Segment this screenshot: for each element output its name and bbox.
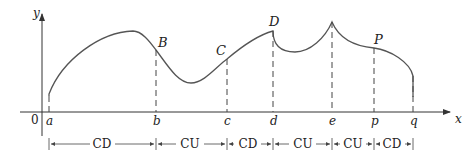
function-curve — [49, 22, 413, 97]
point-label-D: D — [268, 14, 280, 29]
point-label-P: P — [373, 32, 383, 47]
tick-label-c: c — [224, 114, 231, 128]
tick-label-d: d — [270, 114, 278, 128]
point-label-C: C — [216, 43, 226, 58]
interval-label-a-b: CD — [93, 137, 112, 151]
x-axis-label: x — [455, 112, 462, 126]
origin-label: 0 — [31, 113, 39, 127]
interval-label-b-c: CU — [180, 137, 199, 151]
point-label-B: B — [157, 35, 168, 50]
tick-label-e: e — [329, 114, 336, 128]
tick-label-a: a — [46, 114, 53, 128]
y-axis-label: y — [32, 6, 40, 20]
interval-label-p-q: CD — [383, 137, 402, 151]
tick-label-b: b — [153, 114, 161, 128]
tick-label-p: p — [371, 114, 379, 128]
interval-label-d-e: CU — [293, 137, 312, 151]
concavity-diagram: y x 0 a b c d e p q B C D P — [0, 0, 465, 157]
tick-label-q: q — [410, 114, 418, 128]
interval-label-c-d: CD — [239, 137, 258, 151]
interval-label-e-p: CU — [343, 137, 362, 151]
